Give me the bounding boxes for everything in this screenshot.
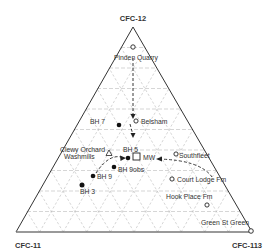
arrowhead-icon [156, 157, 162, 162]
diagonal-gridlines-left [40, 48, 240, 233]
svg-text:BH 7: BH 7 [90, 118, 105, 125]
svg-text:BH 3: BH 3 [80, 188, 95, 195]
data-point-bh9: BH 9 [91, 173, 113, 180]
svg-text:BH 9obs: BH 9obs [118, 166, 145, 173]
data-point-hook-place-fm: Hook Place Fm [166, 193, 213, 207]
horizontal-gridlines [27, 48, 240, 212]
ternary-diagram: CFC-12 CFC-11 CFC-113 Pinden Quarry BH 7… [0, 0, 269, 252]
svg-text:Green St Green: Green St Green [201, 219, 249, 226]
vertex-label-cfc113: CFC-113 [232, 241, 262, 250]
svg-text:Hook Place Fm: Hook Place Fm [166, 193, 213, 200]
svg-text:Washmills: Washmills [64, 153, 95, 160]
svg-text:Court Lodge Fm: Court Lodge Fm [177, 176, 226, 184]
svg-text:MW: MW [143, 154, 156, 161]
svg-text:Southfleet: Southfleet [179, 152, 210, 159]
vertex-label-cfc12: CFC-12 [120, 14, 146, 23]
data-point-bh9obs: BH 9obs [112, 165, 145, 173]
arrowhead-icon [120, 156, 126, 162]
arrowhead-icon [131, 133, 136, 138]
data-point-court-lodge-fm: Court Lodge Fm [170, 176, 227, 184]
svg-text:BH 9: BH 9 [97, 173, 112, 180]
data-point-bh7: BH 7 [90, 118, 121, 127]
data-point-bh3: BH 3 [80, 183, 96, 196]
data-point-green-st-green: Green St Green [201, 219, 253, 233]
svg-text:Belsham: Belsham [141, 118, 168, 125]
svg-text:BH 5: BH 5 [123, 146, 138, 153]
svg-text:Pinden Quarry: Pinden Quarry [114, 54, 158, 62]
arrowhead-icon [131, 114, 136, 119]
triangle-marker-icon [106, 150, 112, 156]
vertex-label-cfc11: CFC-11 [15, 241, 41, 250]
data-point-southfleet: Southfleet [174, 152, 210, 159]
data-point-clewy-orchard: Clewy Orchard Washmills [60, 146, 112, 160]
data-point-mw: MW [133, 153, 156, 161]
